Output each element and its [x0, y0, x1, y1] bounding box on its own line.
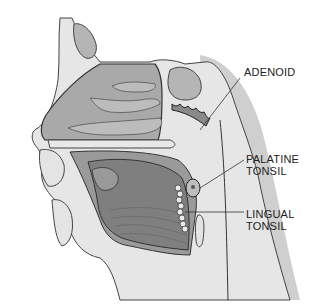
label-palatine-tonsil: PALATINE TONSIL: [246, 153, 299, 177]
label-adenoid-line1: ADENOID: [244, 66, 296, 78]
label-palatine-line1: PALATINE: [246, 153, 299, 165]
hard-palate: [48, 140, 175, 148]
anatomy-diagram: ADENOID PALATINE TONSIL LINGUAL TONSIL: [0, 0, 310, 304]
label-lingual-line2: TONSIL: [246, 220, 294, 232]
label-lingual-line1: LINGUAL: [246, 208, 294, 220]
epiglottis: [195, 215, 204, 247]
palatine-tonsil-center: [191, 185, 195, 189]
label-lingual-tonsil: LINGUAL TONSIL: [246, 208, 294, 232]
label-palatine-line2: TONSIL: [246, 165, 299, 177]
label-adenoid: ADENOID: [244, 66, 296, 78]
head-section-illustration: [0, 0, 310, 304]
